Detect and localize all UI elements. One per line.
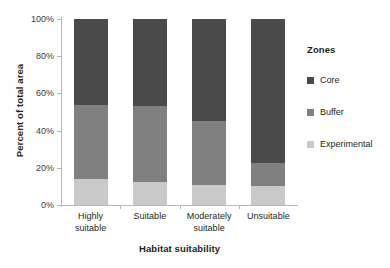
- legend-label: Core: [320, 75, 340, 85]
- legend-swatch-icon: [307, 77, 314, 84]
- y-tick-mark: [57, 19, 61, 20]
- plot-area: 0%20%40%60%80%100%: [61, 19, 298, 205]
- legend-swatch-icon: [307, 109, 314, 116]
- x-label-4: Unsuitable: [228, 211, 308, 223]
- bar-4: [251, 19, 285, 205]
- stacked-bar-chart: Percent of total area 0%20%40%60%80%100%…: [0, 0, 390, 268]
- x-axis-title: Habitat suitability: [61, 243, 298, 254]
- y-tick-label: 20%: [1, 163, 61, 173]
- y-tick-mark: [57, 93, 61, 94]
- legend-title: Zones: [307, 44, 389, 55]
- bar-segment-buffer: [251, 163, 285, 186]
- bar-2: [133, 19, 167, 205]
- bar-segment-buffer: [192, 121, 226, 184]
- bar-1: [74, 19, 108, 205]
- y-tick-label: 60%: [1, 88, 61, 98]
- bar-segment-experimental: [251, 186, 285, 205]
- y-tick-label: 0%: [1, 200, 61, 210]
- y-tick-mark: [57, 168, 61, 169]
- legend-swatch-icon: [307, 141, 314, 148]
- bar-segment-core: [251, 19, 285, 163]
- legend-label: Experimental: [320, 139, 373, 149]
- y-tick-label: 40%: [1, 126, 61, 136]
- y-axis-line: [61, 17, 62, 207]
- x-tick-mark: [239, 205, 240, 209]
- legend-item-core[interactable]: Core: [307, 75, 389, 85]
- bar-segment-experimental: [74, 179, 108, 205]
- y-tick-label: 80%: [1, 51, 61, 61]
- bar-segment-buffer: [74, 105, 108, 179]
- y-tick-mark: [57, 205, 61, 206]
- y-axis-title: Percent of total area: [14, 21, 25, 201]
- legend: Zones CoreBufferExperimental: [307, 44, 389, 171]
- legend-items: CoreBufferExperimental: [307, 75, 389, 149]
- y-tick-mark: [57, 131, 61, 132]
- x-tick-mark: [120, 205, 121, 209]
- legend-item-buffer[interactable]: Buffer: [307, 107, 389, 117]
- bar-3: [192, 19, 226, 205]
- bar-segment-experimental: [133, 182, 167, 205]
- legend-item-experimental[interactable]: Experimental: [307, 139, 389, 149]
- bar-segment-buffer: [133, 106, 167, 181]
- y-tick-label: 100%: [1, 14, 61, 24]
- x-tick-mark: [180, 205, 181, 209]
- bar-segment-core: [133, 19, 167, 106]
- y-tick-mark: [57, 56, 61, 57]
- bar-segment-core: [74, 19, 108, 105]
- legend-label: Buffer: [320, 107, 344, 117]
- bar-segment-experimental: [192, 185, 226, 205]
- bar-segment-core: [192, 19, 226, 121]
